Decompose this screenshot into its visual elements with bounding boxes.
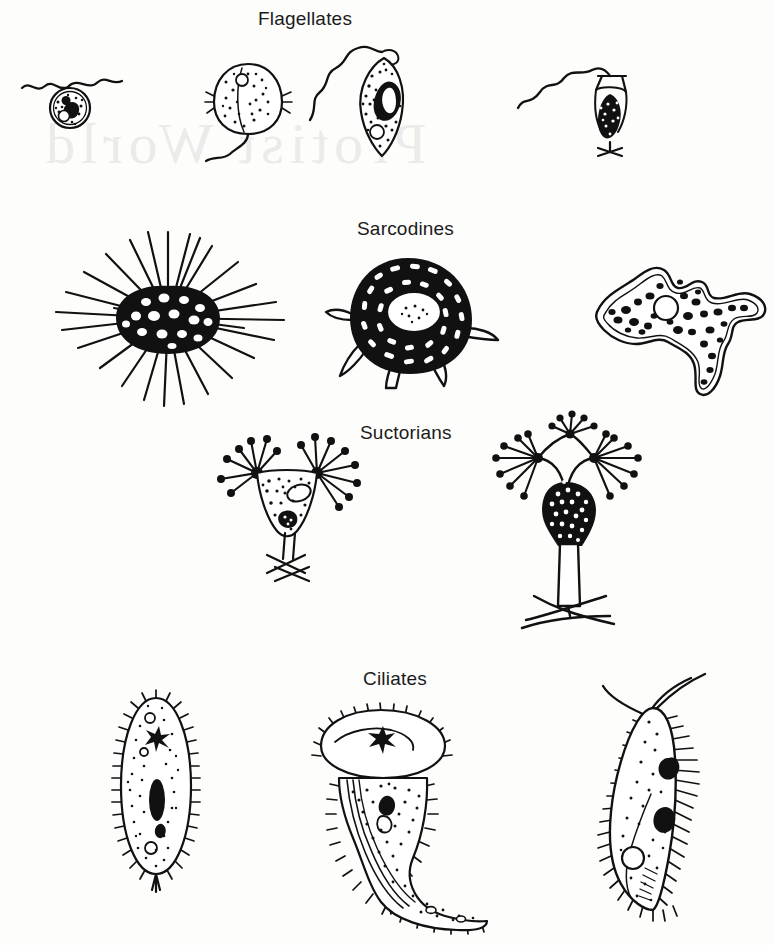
organism-heliozoan: [48, 228, 288, 408]
organism-branched-suctorian: [466, 424, 666, 640]
organism-euglenoid-flagellate: [300, 30, 460, 165]
organism-hypotrich-ciliate: [565, 672, 765, 932]
organism-amoeba-proteus: [592, 252, 772, 402]
group-label-ciliates: Ciliates: [363, 668, 427, 690]
organism-testate-amoeba: [322, 248, 512, 388]
organism-biflagellate-round-cell: [18, 62, 158, 142]
organism-choanoflagellate-in-lorica: [510, 48, 660, 173]
figure-page: Protist World Flagellates Sarcodines Suc…: [0, 0, 774, 945]
organism-suctorian-two-tufts: [205, 425, 375, 585]
organism-trumpet-ciliate: [295, 700, 495, 945]
group-label-sarcodines: Sarcodines: [357, 218, 454, 240]
organism-oval-flagellate: [190, 58, 310, 168]
organism-paramecium: [100, 690, 220, 920]
group-label-flagellates: Flagellates: [258, 8, 352, 30]
